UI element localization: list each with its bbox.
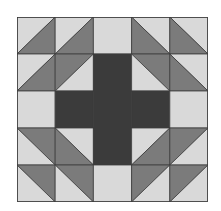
- quilt-square: [93, 128, 131, 165]
- quilt-square: [93, 165, 131, 202]
- quilt-square: [170, 91, 208, 128]
- quilt-square: [93, 91, 131, 128]
- quilt-square: [55, 91, 93, 128]
- quilt-square: [132, 91, 170, 128]
- quilt-square: [93, 54, 131, 91]
- quilt-block: [17, 17, 208, 202]
- quilt-square: [93, 17, 131, 54]
- quilt-square: [17, 91, 55, 128]
